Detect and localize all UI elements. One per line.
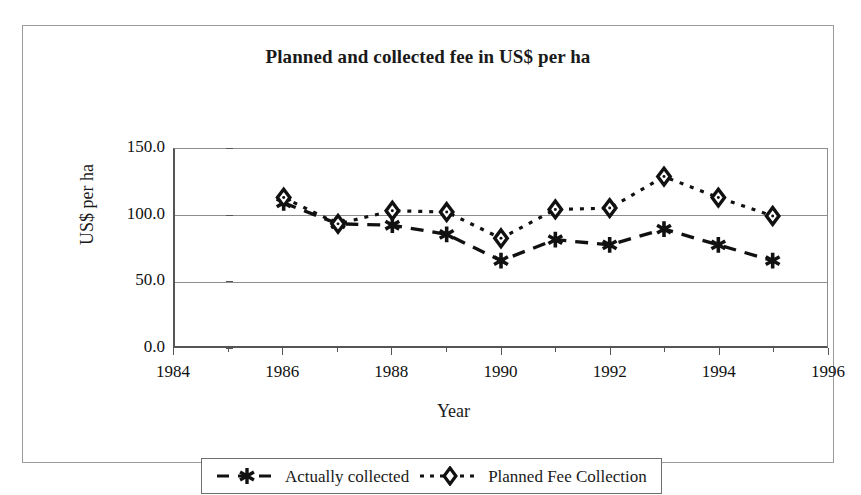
legend-label: Planned Fee Collection [488,468,647,485]
diamond-marker-center [500,237,503,240]
x-tick-mark [664,348,665,352]
diamond-marker-center [771,215,774,218]
y-tick-mark [226,281,233,282]
x-tick-mark [282,348,283,355]
diamond-marker-center [337,222,340,225]
chart-frame: Planned and collected fee in US$ per ha … [22,25,834,463]
x-tick-mark [555,348,556,352]
series-line-2 [284,177,773,239]
diamond-marker-center [717,196,720,199]
x-tick-label: 1992 [575,362,645,382]
x-tick-mark [337,348,338,352]
y-axis-label: US$ per ha [77,105,98,305]
x-tick-label: 1984 [138,362,208,382]
x-tick-mark [228,348,229,352]
diamond-marker-center [391,209,394,212]
legend-entry[interactable]: Planned Fee Collection [419,466,647,486]
y-tick-label: 50.0 [93,270,165,290]
legend-label: Actually collected [285,468,409,485]
diamond-marker-center [663,175,666,178]
x-tick-mark [828,348,829,355]
y-tick-label: 0.0 [93,337,165,357]
legend-entry[interactable]: Actually collected [216,466,409,486]
x-axis-ticks: 1984198619881990199219941996 [23,362,861,388]
x-tick-mark [501,348,502,355]
series-line-1 [284,203,773,261]
diamond-marker-center [554,208,557,211]
x-tick-mark [446,348,447,352]
x-tick-label: 1994 [684,362,754,382]
x-axis-label: Year [23,401,861,422]
asterisk-marker [494,253,508,269]
series-layer [175,149,827,346]
legend-key-diamond [419,466,481,486]
x-tick-label: 1996 [793,362,861,382]
y-tick-label: 150.0 [93,137,165,157]
x-tick-label: 1986 [247,362,317,382]
diamond-marker-center [608,207,611,210]
y-tick-label: 100.0 [93,204,165,224]
diamond-marker-center [445,211,448,214]
x-tick-mark [773,348,774,352]
x-tick-mark [173,348,174,355]
y-tick-mark [226,215,233,216]
x-tick-mark [391,348,392,355]
x-tick-label: 1988 [356,362,426,382]
diamond-marker-center [282,196,285,199]
y-tick-mark [226,148,233,149]
x-tick-mark [719,348,720,355]
legend-key-asterisk [216,466,278,486]
x-tick-mark [610,348,611,355]
chart-legend: Actually collectedPlanned Fee Collection [201,458,662,494]
x-tick-label: 1990 [466,362,536,382]
plot-area [173,148,828,348]
